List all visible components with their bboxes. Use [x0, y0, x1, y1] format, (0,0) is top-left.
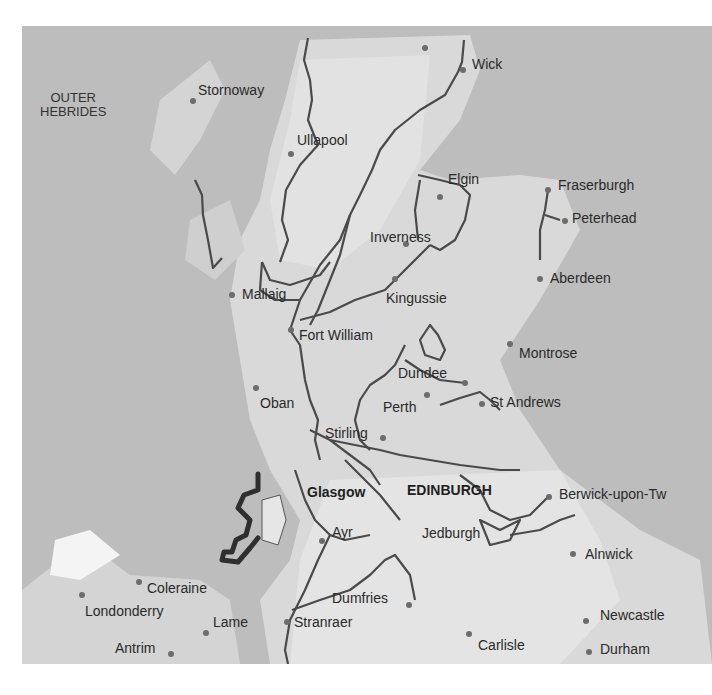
- town-label-newcastle[interactable]: Newcastle: [600, 608, 665, 622]
- town-label-mallaig[interactable]: Mallaig: [242, 287, 286, 301]
- town-marker-icon[interactable]: [586, 649, 592, 655]
- region-label: OUTERHEBRIDES: [40, 91, 106, 119]
- town-marker-icon[interactable]: [380, 435, 386, 441]
- town-marker-icon[interactable]: [583, 618, 589, 624]
- town-marker-icon[interactable]: [203, 630, 209, 636]
- town-marker-icon[interactable]: [288, 327, 294, 333]
- town-marker-icon[interactable]: [284, 619, 290, 625]
- town-marker-icon[interactable]: [319, 538, 325, 544]
- town-label-edinburgh[interactable]: EDINBURGH: [407, 483, 492, 497]
- town-marker-icon[interactable]: [168, 651, 174, 657]
- town-label-kingussie[interactable]: Kingussie: [386, 291, 447, 305]
- town-label-wick[interactable]: Wick: [472, 57, 502, 71]
- town-label-berwick-upon-tw[interactable]: Berwick-upon-Tw: [559, 487, 666, 501]
- town-label-antrim[interactable]: Antrim: [115, 641, 155, 655]
- town-label-peterhead[interactable]: Peterhead: [572, 211, 637, 225]
- town-marker-icon[interactable]: [136, 579, 142, 585]
- map-canvas[interactable]: OUTERHEBRIDESThursoWickStornowayUllapool…: [22, 26, 712, 664]
- town-marker-icon[interactable]: [229, 292, 235, 298]
- town-label-st-andrews[interactable]: St Andrews: [490, 395, 561, 409]
- town-label-alnwick[interactable]: Alnwick: [585, 547, 632, 561]
- town-marker-icon[interactable]: [288, 151, 294, 157]
- town-label-ullapool[interactable]: Ullapool: [297, 133, 348, 147]
- town-marker-icon[interactable]: [437, 194, 443, 200]
- town-label-stirling[interactable]: Stirling: [325, 426, 368, 440]
- town-marker-icon[interactable]: [190, 98, 196, 104]
- town-marker-icon[interactable]: [507, 341, 513, 347]
- town-marker-icon[interactable]: [562, 218, 568, 224]
- town-marker-icon[interactable]: [424, 392, 430, 398]
- town-label-fraserburgh[interactable]: Fraserburgh: [558, 178, 634, 192]
- region-label-line: HEBRIDES: [40, 105, 106, 119]
- highlighted-route: [222, 474, 258, 562]
- town-marker-icon[interactable]: [79, 592, 85, 598]
- town-label-dumfries[interactable]: Dumfries: [332, 591, 388, 605]
- town-label-montrose[interactable]: Montrose: [519, 346, 577, 360]
- region-label-line: OUTER: [40, 91, 106, 105]
- town-label-stornoway[interactable]: Stornoway: [198, 83, 264, 97]
- town-label-oban[interactable]: Oban: [260, 396, 294, 410]
- town-label-lame[interactable]: Lame: [213, 615, 248, 629]
- town-marker-icon[interactable]: [392, 276, 398, 282]
- town-marker-icon[interactable]: [479, 401, 485, 407]
- map-terrain: [22, 26, 712, 664]
- town-label-fort-william[interactable]: Fort William: [299, 328, 373, 342]
- town-label-coleraine[interactable]: Coleraine: [147, 581, 207, 595]
- town-label-perth[interactable]: Perth: [383, 400, 416, 414]
- town-marker-icon[interactable]: [546, 494, 552, 500]
- town-marker-icon[interactable]: [460, 67, 466, 73]
- town-marker-icon[interactable]: [466, 631, 472, 637]
- town-marker-icon[interactable]: [570, 551, 576, 557]
- town-label-jedburgh[interactable]: Jedburgh: [422, 526, 480, 540]
- town-marker-icon[interactable]: [537, 276, 543, 282]
- town-label-carlisle[interactable]: Carlisle: [478, 638, 525, 652]
- town-label-durham[interactable]: Durham: [600, 642, 650, 656]
- town-label-londonderry[interactable]: Londonderry: [85, 604, 164, 618]
- town-label-elgin[interactable]: Elgin: [448, 172, 479, 186]
- town-marker-icon[interactable]: [462, 380, 468, 386]
- town-label-glasgow[interactable]: Glasgow: [307, 485, 365, 499]
- town-marker-icon[interactable]: [406, 602, 412, 608]
- town-label-stranraer[interactable]: Stranraer: [294, 615, 352, 629]
- town-marker-icon[interactable]: [422, 45, 428, 51]
- town-label-aberdeen[interactable]: Aberdeen: [550, 271, 611, 285]
- town-label-dundee[interactable]: Dundee: [398, 366, 447, 380]
- town-marker-icon[interactable]: [545, 187, 551, 193]
- town-label-inverness[interactable]: Inverness: [370, 230, 431, 244]
- town-label-ayr[interactable]: Ayr: [332, 525, 353, 539]
- town-marker-icon[interactable]: [253, 385, 259, 391]
